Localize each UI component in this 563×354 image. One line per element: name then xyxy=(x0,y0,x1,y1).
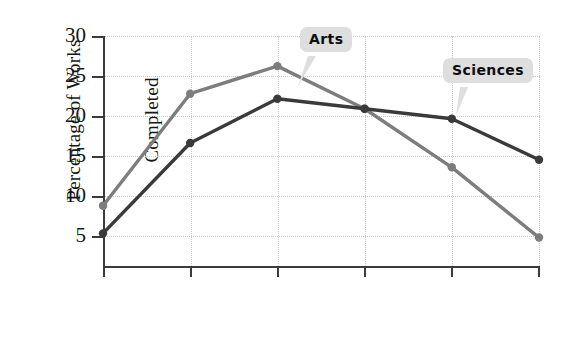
data-point-sciences-20s xyxy=(99,229,107,237)
data-point-arts-70s xyxy=(535,233,543,241)
callout-sciences: Sciences xyxy=(443,58,533,83)
data-point-arts-40s xyxy=(273,62,281,70)
y-tick-label-5: 5 xyxy=(76,224,87,246)
callout-arts-tail xyxy=(290,54,330,88)
data-point-sciences-30s xyxy=(186,139,194,147)
data-point-arts-60s xyxy=(448,163,456,171)
data-point-arts-30s xyxy=(186,90,194,98)
data-point-sciences-70s xyxy=(535,156,543,164)
callout-sciences-label: Sciences xyxy=(452,62,524,78)
y-tick-label-25: 25 xyxy=(65,64,86,86)
data-point-arts-20s xyxy=(99,202,107,210)
chart-figure: Percentage of Works Completed 30 25 20 1… xyxy=(0,0,563,354)
data-point-sciences-50s xyxy=(360,105,368,113)
y-axis-title: Percentage of Works Completed xyxy=(9,5,65,235)
data-point-sciences-40s xyxy=(273,95,281,103)
callout-arts: Arts xyxy=(300,27,352,52)
y-tick-label-15: 15 xyxy=(65,144,86,166)
callout-sciences-tail xyxy=(440,85,480,119)
y-tick-label-10: 10 xyxy=(65,184,86,206)
callout-arts-label: Arts xyxy=(309,31,343,47)
y-tick-label-30: 30 xyxy=(65,24,86,46)
y-tick-label-20: 20 xyxy=(65,104,86,126)
